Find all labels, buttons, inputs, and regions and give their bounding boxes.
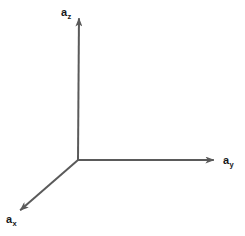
z-axis-label-subscript: z [68, 12, 72, 21]
x-axis-label-symbol: a [6, 213, 12, 225]
y-axis-label: ay [223, 155, 233, 166]
x-axis-label: ax [6, 214, 16, 225]
z-axis-line [78, 18, 79, 160]
y-axis-label-subscript: y [230, 160, 234, 169]
x-axis-label-subscript: x [13, 219, 17, 228]
x-axis-line [20, 160, 78, 210]
y-axis-label-symbol: a [223, 154, 229, 166]
z-axis-label: az [61, 7, 71, 18]
z-axis-label-symbol: a [61, 6, 67, 18]
axes-diagram-canvas: az ay ax [0, 0, 245, 236]
axes-vector-graphic [0, 0, 245, 236]
